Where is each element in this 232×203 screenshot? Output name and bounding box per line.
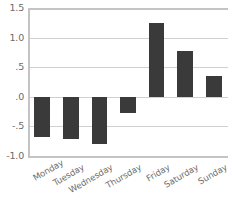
plot-area [28,8,228,156]
bar-saturday[interactable] [177,51,193,97]
bar-tuesday[interactable] [63,97,79,140]
y-tick-label: .5 [0,62,24,72]
bar-friday[interactable] [149,23,165,97]
bar-wednesday[interactable] [92,97,108,144]
y-tick-label: .0 [0,92,24,102]
bars [28,8,228,156]
bar-chart: 1.51.0.5.0-.5-1.0 MondayTuesdayWednesday… [0,0,232,203]
y-tick-label: -1.0 [0,151,24,161]
y-tick-label: 1.0 [0,33,24,43]
x-axis-tick-labels: MondayTuesdayWednesdayThursdayFridaySatu… [28,156,228,203]
y-axis-tick-labels: 1.51.0.5.0-.5-1.0 [0,0,24,203]
bar-monday[interactable] [34,97,50,137]
bar-sunday[interactable] [206,76,222,97]
y-tick-label: 1.5 [0,3,24,13]
y-tick-label: -.5 [0,122,24,132]
bar-thursday[interactable] [120,97,136,114]
